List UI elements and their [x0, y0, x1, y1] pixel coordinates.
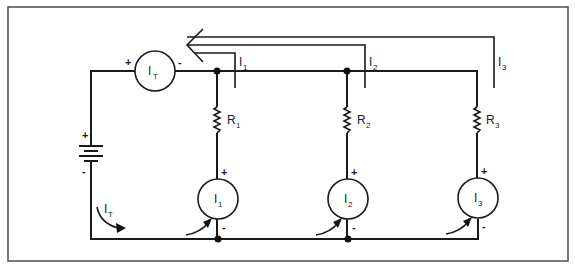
- junction-node: [215, 236, 222, 243]
- svg-text:I: I: [104, 202, 107, 216]
- resistor-icon: [344, 107, 350, 133]
- svg-text:+: +: [481, 165, 487, 177]
- current-label-i3: I: [498, 55, 501, 69]
- svg-text:T: T: [108, 210, 113, 219]
- svg-text:-: -: [482, 220, 486, 232]
- resistor-r1: R 1: [214, 107, 241, 133]
- svg-text:I: I: [344, 192, 347, 206]
- battery-negative-label: -: [82, 165, 86, 177]
- resistor-r3: R 3: [474, 107, 500, 133]
- circuit-wires: [91, 71, 478, 239]
- svg-text:R: R: [486, 113, 495, 127]
- svg-text:2: 2: [366, 121, 371, 130]
- svg-text:R: R: [357, 113, 366, 127]
- svg-text:3: 3: [502, 63, 507, 72]
- junction-node: [344, 68, 351, 75]
- battery-icon: [79, 146, 103, 161]
- svg-text:I: I: [474, 191, 477, 205]
- branch-ammeter-2: I 2 + -: [316, 166, 368, 235]
- resistor-icon: [214, 107, 220, 133]
- svg-text:+: +: [351, 166, 357, 178]
- svg-text:3: 3: [495, 121, 500, 130]
- total-meter-positive: +: [125, 56, 131, 68]
- branch-ammeter-3: I 3 + -: [446, 165, 498, 234]
- resistor-r2: R 2: [344, 107, 371, 133]
- total-meter-sub: T: [153, 72, 158, 81]
- current-label-i1: I: [239, 55, 242, 69]
- current-label-i2: I: [369, 55, 372, 69]
- ammeter-circle-icon: [198, 179, 238, 219]
- svg-text:R: R: [227, 113, 236, 127]
- svg-text:1: 1: [243, 63, 248, 72]
- total-meter-negative: -: [178, 56, 182, 68]
- svg-text:1: 1: [236, 121, 241, 130]
- svg-text:I: I: [214, 192, 217, 206]
- branch-ammeter-1: I 1 + -: [186, 166, 238, 235]
- svg-text:-: -: [352, 221, 356, 233]
- svg-text:-: -: [222, 221, 226, 233]
- total-current-indicator: I T: [97, 202, 126, 233]
- svg-text:+: +: [221, 166, 227, 178]
- junction-node: [214, 68, 221, 75]
- circuit-diagram: + - I T + - R 1 R 2 R 3 I 1 + - I: [0, 0, 575, 267]
- ammeter-circle-icon: [458, 178, 498, 218]
- junction-node: [345, 236, 352, 243]
- svg-text:2: 2: [373, 63, 378, 72]
- ammeter-circle-icon: [328, 179, 368, 219]
- resistor-icon: [474, 107, 480, 133]
- battery-positive-label: +: [82, 129, 88, 141]
- total-meter-label: I: [148, 64, 151, 78]
- svg-text:2: 2: [348, 200, 353, 209]
- svg-text:1: 1: [218, 200, 223, 209]
- ammeter-circle-icon: [135, 51, 175, 91]
- svg-text:3: 3: [478, 199, 483, 208]
